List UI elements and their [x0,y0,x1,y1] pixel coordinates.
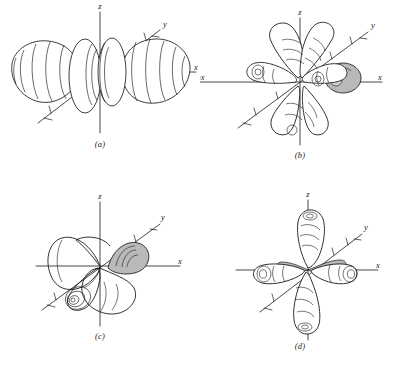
lobe-ll [269,82,303,137]
axis-label-y: y [162,19,167,29]
panel-c: z x y [0,188,200,375]
orbital-figure: z x y (a) [0,0,400,375]
axis-label-x: x [377,72,382,82]
lobe-x-positive [122,39,190,103]
caption-a: (a) [0,139,200,149]
axis-label-x: x [375,260,380,270]
panel-a: z x y [0,0,200,187]
axis-label-y: y [160,212,165,222]
caption-d: (d) [200,341,400,351]
axis-label-z: z [97,191,102,201]
lobe-x-negative [12,41,78,103]
axis-label-x: x [193,62,198,72]
axis-label-z: z [297,7,302,17]
lobe-lr [301,84,330,136]
caption-c: (c) [0,331,200,341]
axis-label-y: y [363,222,368,232]
axis-label-y: y [370,20,375,30]
axis-label-z: z [305,189,310,199]
axis-label-neg-x: -x [200,72,205,82]
axis-label-x: x [177,256,182,266]
caption-b: (b) [200,150,400,160]
lobe-z-positive [297,210,324,268]
lobe-z-negative [294,272,320,334]
axis-label-z: z [97,1,102,11]
